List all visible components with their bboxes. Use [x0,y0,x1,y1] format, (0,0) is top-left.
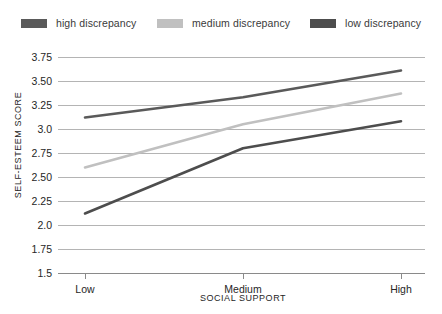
gridline [58,81,425,82]
legend-swatch-icon [21,19,47,28]
legend-item-label: high discrepancy [56,18,136,29]
gridline [58,105,425,106]
y-axis-tick-label: 3.25 [8,100,52,111]
legend-item-high-discrepancy[interactable]: high discrepancy [21,16,136,30]
y-axis-tick-label: 2.25 [8,196,52,207]
legend-item-label: medium discrepancy [192,18,290,29]
gridline [58,153,425,154]
gridline [58,249,425,250]
gridline [58,201,425,202]
y-axis-tick-label: 3.50 [8,76,52,87]
y-axis-tick-label: 1.75 [8,244,52,255]
y-axis-tick-label: 2.0 [8,220,52,231]
y-axis-tick-label: 3.75 [8,52,52,63]
x-axis-tick-mark [243,274,244,279]
legend-swatch-icon [157,19,183,28]
legend-swatch-icon [310,19,336,28]
chart-legend: high discrepancy medium discrepancy low … [0,0,442,40]
legend-item-low-discrepancy[interactable]: low discrepancy [310,16,421,30]
series-line [85,70,401,117]
y-axis-tick-label: 3.0 [8,124,52,135]
x-axis-tick-label: Low [75,283,94,295]
y-axis-tick-label: 1.5 [8,268,52,279]
chart-figure: high discrepancy medium discrepancy low … [0,0,442,314]
gridline [58,225,425,226]
gridline [58,177,425,178]
gridline [58,273,425,274]
legend-item-medium-discrepancy[interactable]: medium discrepancy [157,16,290,30]
x-axis-tick-mark [85,274,86,279]
x-axis-tick-label: High [390,283,412,295]
gridline [58,129,425,130]
x-axis-tick-mark [401,274,402,279]
legend-item-label: low discrepancy [345,18,421,29]
y-axis-tick-label: 2.75 [8,148,52,159]
y-axis-title: SELF-ESTEEM SCORE [13,75,23,215]
y-axis-tick-label: 2.50 [8,172,52,183]
gridline [58,57,425,58]
plot-area: SELF-ESTEEM SCORE SOCIAL SUPPORT 3.753.5… [0,40,442,314]
series-line [85,121,401,213]
x-axis-tick-label: Medium [224,283,261,295]
